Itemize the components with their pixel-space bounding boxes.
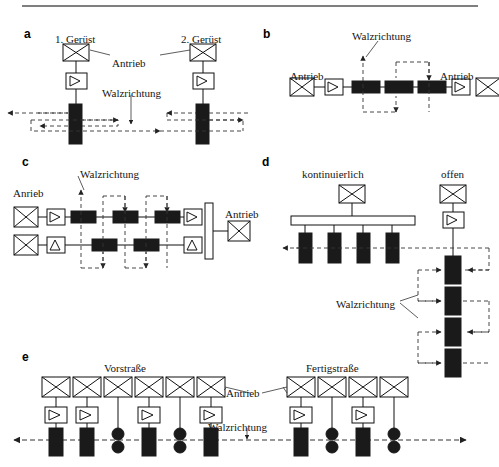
roll-pair-lower xyxy=(388,441,400,453)
leader-antrieb-left xyxy=(90,50,110,55)
work-roll xyxy=(71,211,96,223)
work-roll xyxy=(69,104,82,144)
label-a-walzrichtung: Walzrichtung xyxy=(102,88,161,99)
label-b-antrieb: Antrieb xyxy=(440,71,474,82)
work-roll xyxy=(445,256,461,284)
panel-letter-d: d xyxy=(262,155,269,169)
e-stand-10 xyxy=(380,377,408,453)
d-continuous xyxy=(291,185,415,263)
label-a-1-ger-st: 1. Gerüst xyxy=(55,34,95,45)
panel-letter-b: b xyxy=(263,27,270,41)
stand-1 xyxy=(63,44,89,144)
work-roll xyxy=(155,211,180,223)
work-roll xyxy=(142,428,156,456)
label-c-walzrichtung: Walzrichtung xyxy=(80,169,139,180)
leader-antrieb-e-r2 xyxy=(262,387,287,393)
work-roll xyxy=(196,104,209,144)
work-roll xyxy=(418,81,446,93)
label-d-walzrichtung: Walzrichtung xyxy=(336,299,395,310)
work-roll xyxy=(445,349,461,377)
work-roll xyxy=(80,428,94,456)
stand-2 xyxy=(190,44,216,144)
panel-c xyxy=(14,176,250,268)
panel-d xyxy=(283,185,489,377)
work-roll xyxy=(445,318,461,346)
e-stand-2 xyxy=(73,377,101,456)
label-e-antrieb: Antrieb xyxy=(226,388,260,399)
roll-pair-lower xyxy=(174,441,186,453)
label-c-antrieb: Antrieb xyxy=(225,209,259,220)
pass-line-dashed xyxy=(8,113,248,131)
label-e-vorstra-e: Vorstraße xyxy=(104,363,146,374)
e-stand-6 xyxy=(197,377,225,456)
label-a-antrieb: Antrieb xyxy=(112,58,146,69)
e-stand-9 xyxy=(349,377,377,456)
leader-walzrichtung-b xyxy=(366,41,378,57)
e-stand-1 xyxy=(42,377,70,456)
roll-pair-upper xyxy=(112,428,124,440)
roll-pair-upper xyxy=(174,428,186,440)
work-roll xyxy=(385,81,413,93)
d-open xyxy=(440,185,466,377)
e-stand-5 xyxy=(166,377,194,453)
panel-letter-c: c xyxy=(22,155,29,169)
roll-pair-upper xyxy=(326,428,338,440)
work-roll xyxy=(294,428,308,456)
common-drive-bar xyxy=(205,203,213,259)
e-stand-4 xyxy=(135,377,163,456)
label-b-walzrichtung: Walzrichtung xyxy=(352,31,411,42)
label-d-kontinuierlich: kontinuierlich xyxy=(302,169,364,180)
work-roll xyxy=(113,211,138,223)
work-roll xyxy=(134,239,159,251)
panel-letter-e: e xyxy=(22,350,29,364)
work-roll xyxy=(356,428,370,456)
label-e-walzrichtung: Walzrichtung xyxy=(208,422,267,433)
label-c-anrieb: Anrieb xyxy=(13,188,44,199)
roll-pair-lower xyxy=(326,441,338,453)
label-d-offen: offen xyxy=(441,169,464,180)
panel-letter-a: a xyxy=(24,27,31,41)
work-roll xyxy=(352,81,380,93)
e-stand-7 xyxy=(287,377,315,456)
work-roll xyxy=(92,239,117,251)
work-roll xyxy=(445,287,461,315)
e-stand-8 xyxy=(318,377,346,453)
leader-antrieb-right xyxy=(160,50,190,55)
e-stand-3 xyxy=(104,377,132,453)
c-dashed-loops xyxy=(81,190,167,268)
leader-walzrichtung-d1 xyxy=(400,295,418,301)
label-a-2-ger-st: 2. Gerüst xyxy=(181,34,221,45)
roll-pair-lower xyxy=(112,441,124,453)
line-shaft-bar xyxy=(291,216,415,225)
leader-walzrichtung-d2 xyxy=(400,303,418,318)
label-e-fertigstra-e: Fertigstraße xyxy=(306,363,359,374)
roll-pair-upper xyxy=(388,428,400,440)
label-b-antrieb: Antrieb xyxy=(290,71,324,82)
work-roll xyxy=(49,428,63,456)
